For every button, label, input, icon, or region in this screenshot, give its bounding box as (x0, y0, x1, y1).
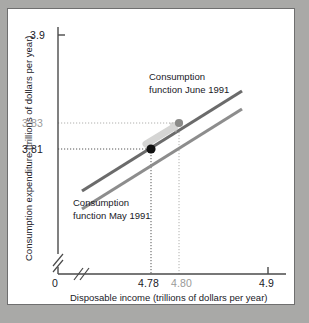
x-tick-label-480: 4.80 (171, 277, 192, 289)
annotation-june-1991-line2: function June 1991 (149, 84, 229, 95)
x-axis-title: Disposable income (trillions of dollars … (70, 292, 267, 303)
figure-root: 3.9 3.83 3.81 0 4.78 4.80 4.9 Disposable… (0, 0, 309, 323)
consumption-function-june-1991-line (82, 91, 242, 191)
y-axis-title-wrapper: Consumption expenditure (trillions of do… (18, 51, 36, 261)
plot-area (8, 9, 295, 305)
x-tick-label-478: 4.78 (138, 277, 159, 289)
data-point-may-1991 (146, 144, 155, 153)
x-tick-label-49: 4.9 (259, 277, 274, 289)
data-point-june-1991 (175, 119, 183, 127)
x-origin-label: 0 (52, 277, 58, 289)
consumption-function-may-1991-line (82, 109, 242, 209)
annotation-may-1991-line1: Consumption (73, 197, 129, 208)
chart-panel: 3.9 3.83 3.81 0 4.78 4.80 4.9 Disposable… (7, 8, 295, 305)
annotation-may-1991-line2: function May 1991 (73, 210, 151, 221)
y-axis-title: Consumption expenditure (trillions of do… (23, 36, 34, 261)
annotation-june-1991-line1: Consumption (149, 71, 205, 82)
